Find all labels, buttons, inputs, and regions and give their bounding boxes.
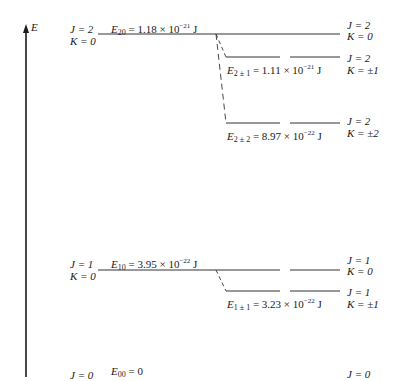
energy-symbol: E [111,23,118,35]
right-label-E1pm1-K: K = ±1 [347,299,379,310]
energy-unit: J [190,258,197,270]
energy-symbol: E [227,64,234,76]
energy-label-E2pm2: E2 ± 2 = 8.97 × 10−22 J [227,128,322,145]
right-label-E2pm1-K: K = ±1 [347,65,379,76]
energy-label-E20: E20 = 1.18 × 10−21 J [111,21,197,38]
energy-exponent: −22 [179,257,190,265]
energy-subscript: 10 [118,263,126,272]
energy-label-E1pm1: E1 ± 1 = 3.23 × 10−22 J [227,296,322,313]
right-label-E00-J: J = 0 [347,369,370,380]
left-label-E10-K: K = 0 [70,271,96,282]
energy-value: = 8.97 × 10 [250,130,304,142]
energy-symbol: E [227,130,234,142]
right-label-E20-K: K = 0 [347,31,373,42]
energy-exponent: −21 [179,22,190,30]
right-label-E2pm2-K: K = ±2 [347,128,379,139]
energy-value: = 1.18 × 10 [126,23,180,35]
energy-exponent: −21 [303,63,314,71]
energy-subscript: 2 ± 2 [234,135,250,144]
energy-symbol: E [111,258,118,270]
energy-label-E2pm1: E2 ± 1 = 1.11 × 10−21 J [227,62,321,79]
energy-unit: J [190,23,197,35]
energy-label-E10: E10 = 3.95 × 10−22 J [111,256,197,273]
right-label-E2pm1-J: J = 2 [347,53,370,64]
left-label-E10-J: J = 1 [70,259,93,270]
energy-unit: J [315,130,322,142]
energy-value: = 3.95 × 10 [126,258,180,270]
energy-subscript: 00 [118,370,126,379]
left-label-E20-J: J = 2 [70,24,93,35]
energy-value: = 3.23 × 10 [250,298,304,310]
energy-label-E00: E00 = 0 [111,366,143,380]
energy-subscript: 20 [118,28,126,37]
energy-exponent: −22 [304,129,315,137]
right-label-E10-K: K = 0 [347,266,373,277]
energy-exponent: −22 [304,297,315,305]
connector-E20-E2pm2 [216,34,226,123]
left-label-E00-J: J = 0 [70,370,93,381]
energy-subscript: 2 ± 1 [234,69,250,78]
axis-arrow-icon [23,24,29,33]
energy-symbol: E [227,298,234,310]
right-label-E2pm2-J: J = 2 [347,116,370,127]
energy-unit: J [315,298,322,310]
energy-unit: J [314,64,321,76]
axis-label: E [31,22,38,33]
energy-value: = 0 [126,365,143,377]
energy-subscript: 1 ± 1 [234,303,250,312]
left-label-E20-K: K = 0 [70,36,96,47]
right-label-E1pm1-J: J = 1 [347,287,370,298]
connector-E10-E1pm1 [216,270,226,291]
energy-value: = 1.11 × 10 [250,64,303,76]
energy-symbol: E [111,365,118,377]
